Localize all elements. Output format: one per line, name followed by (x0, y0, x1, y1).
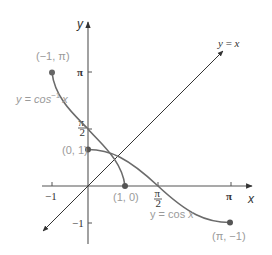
cos-label-var: x (187, 208, 194, 220)
x-tick-label-pi: π (226, 190, 232, 202)
chart-figure: x y −1 π 2 π π π 2 −1 (−1, π) (0, 1) (1,… (0, 0, 272, 255)
x-axis-label: x (247, 192, 255, 206)
label-point-neg1-pi: (−1, π) (36, 50, 70, 62)
label-cos: y = cos x (150, 208, 194, 220)
identity-line (43, 51, 223, 231)
arccos-label-var: x (61, 93, 68, 105)
x-tick-label-pi-half: π 2 (154, 187, 162, 209)
point-neg1-pi (49, 70, 55, 76)
label-point-1-0: (1, 0) (113, 191, 139, 203)
y-tick-label-pi: π (77, 66, 83, 78)
y-axis-label: y (76, 17, 84, 31)
x-tick-label-neg1: −1 (45, 190, 57, 202)
arccos-label-prefix: y = cos (15, 93, 52, 105)
point-pi-neg1 (227, 220, 233, 226)
label-point-pi-neg1: (π, −1) (212, 230, 246, 242)
point-1-0 (122, 183, 128, 189)
identity-label-x: x (234, 37, 240, 49)
pi-half-denominator-y: 2 (80, 126, 86, 138)
cos-label-prefix: y = cos (150, 208, 188, 220)
identity-label-eq: = (223, 37, 235, 49)
label-identity: y = x (217, 37, 240, 49)
label-point-0-1: (0, 1) (62, 144, 88, 156)
arccos-label-sup: −1 (51, 91, 61, 100)
y-tick-label-neg1: −1 (72, 217, 84, 229)
